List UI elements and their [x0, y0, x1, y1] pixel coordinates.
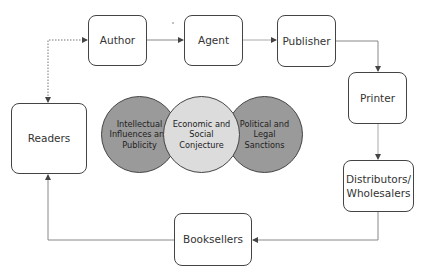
node-printer: Printer: [348, 72, 407, 124]
node-agent: Agent: [184, 15, 243, 66]
node-author: Author: [88, 15, 147, 66]
booksellers-readers-connector: [48, 175, 174, 240]
node-distributors-label-2: Wholesalers: [347, 186, 411, 200]
node-agent-label: Agent: [198, 33, 229, 47]
node-readers-label: Readers: [28, 131, 71, 145]
node-booksellers: Booksellers: [174, 213, 252, 266]
influence-circle-economic: Economic and Social Conjecture: [163, 96, 240, 173]
node-author-label: Author: [100, 33, 135, 47]
influence-label-economic: Economic and Social Conjecture: [172, 119, 232, 151]
node-booksellers-label: Booksellers: [183, 232, 243, 246]
node-distributors: Distributors/ Wholesalers: [343, 160, 414, 212]
node-readers: Readers: [11, 103, 87, 174]
influence-label-intellectual: Intellectual Influences and Publicity: [110, 119, 170, 151]
distributors-booksellers-connector: [253, 212, 378, 240]
publisher-printer-connector: [336, 41, 378, 71]
node-printer-label: Printer: [360, 91, 395, 105]
node-publisher: Publisher: [277, 15, 336, 67]
stray-dot: [172, 22, 173, 23]
node-distributors-label-1: Distributors/: [346, 172, 411, 186]
readers-author-dotted-connector: [48, 40, 87, 102]
node-publisher-label: Publisher: [282, 34, 330, 48]
influence-label-political: Political and Legal Sanctions: [235, 119, 295, 151]
